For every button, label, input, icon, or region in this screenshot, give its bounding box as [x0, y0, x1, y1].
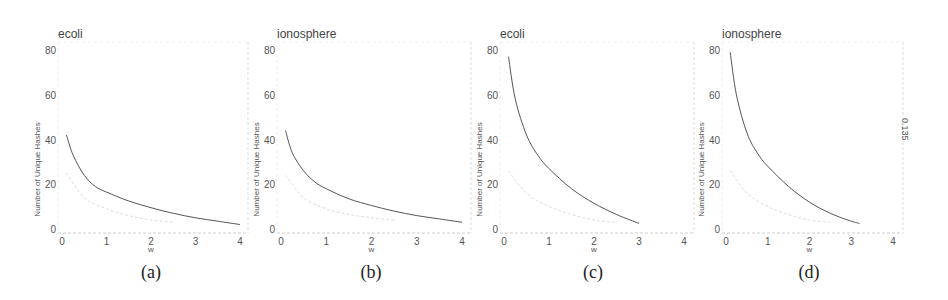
- y-tick-label: 40: [709, 135, 721, 146]
- x-tick-label: 0: [723, 236, 729, 247]
- y-axis-label: Number of Unique Hashes: [697, 122, 706, 216]
- x-tick-label: 4: [890, 236, 896, 247]
- chart-title: ionosphere: [722, 27, 782, 41]
- caption-d: (d): [799, 262, 820, 283]
- x-tick-label: 3: [848, 236, 854, 247]
- side-label: 0.135: [900, 118, 910, 141]
- y-tick-label: 20: [709, 179, 721, 190]
- x-axis-label: w: [806, 245, 813, 254]
- x-tick-label: 1: [765, 236, 771, 247]
- y-tick-label: 80: [709, 45, 721, 56]
- caption-a: (a): [141, 262, 161, 283]
- y-tick-label: 60: [709, 90, 721, 101]
- caption-b: (b): [361, 262, 382, 283]
- series-line-main: [730, 52, 859, 223]
- panel-d: ionosphere02040608001234wNumber of Uniqu…: [0, 0, 948, 300]
- chart-ionosphere-d: ionosphere02040608001234wNumber of Uniqu…: [0, 0, 948, 260]
- y-tick-label: 0: [714, 224, 720, 235]
- caption-c: (c): [583, 262, 603, 283]
